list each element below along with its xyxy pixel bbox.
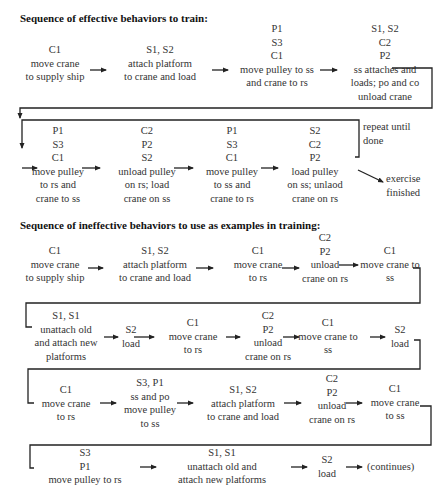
- action-text: to rs: [36, 410, 96, 424]
- action-text: attach new platforms: [170, 473, 274, 487]
- repeat-until-done-note: repeat until done: [363, 120, 411, 147]
- actor-label: C2: [304, 372, 360, 386]
- actor-label: S1, S1: [30, 309, 102, 323]
- action-text: move pulley to ss: [232, 63, 322, 77]
- action-text: unload pulley: [112, 165, 182, 179]
- action-text: to rs: [162, 343, 224, 357]
- actor-label: P2: [345, 49, 425, 63]
- ineffective-step-12: C1 move crane to rs: [36, 383, 96, 424]
- actor-label: P2: [297, 245, 353, 259]
- ineffective-step-13: S3, P1 ss and po move pulley to ss: [118, 376, 182, 430]
- actor-label: S1, S1: [170, 446, 274, 460]
- action-text: unload: [240, 336, 296, 350]
- action-text: platforms: [30, 350, 102, 364]
- action-text: unload: [297, 258, 353, 272]
- note-text: exercise: [386, 172, 420, 186]
- action-text: load pulley: [280, 165, 350, 179]
- action-text: move crane: [228, 258, 288, 272]
- action-text: ss attaches and: [345, 63, 425, 77]
- action-text: to crane and load: [110, 271, 200, 285]
- action-text: move crane to: [358, 258, 422, 272]
- effective-loop-step-1: P1 S3 C1 move pulley to rs and crane to …: [28, 124, 88, 205]
- effective-sequence-heading: Sequence of effective behaviors to train…: [20, 12, 208, 24]
- actor-label: C2: [297, 231, 353, 245]
- action-text: ss: [358, 271, 422, 285]
- action-text: move pulley: [197, 165, 267, 179]
- action-text: to supply ship: [20, 70, 90, 84]
- actor-label: C1: [358, 244, 422, 258]
- action-text: to rs and: [28, 178, 88, 192]
- action-text: to ss: [118, 417, 182, 431]
- actor-label: S3: [28, 138, 88, 152]
- effective-loop-step-2: C2 P2 S2 unload pulley on rs; load crane…: [112, 124, 182, 205]
- actor-label: S2: [314, 453, 340, 467]
- ineffective-step-10: C1 move crane to ss: [296, 316, 360, 357]
- action-text: move crane: [162, 330, 224, 344]
- actor-label: S3: [232, 36, 322, 50]
- ineffective-step-3: C1 move crane to rs: [228, 244, 288, 285]
- actor-label: S3: [197, 138, 267, 152]
- action-text: ss: [296, 343, 360, 357]
- effective-step-3: P1 S3 C1 move pulley to ss and crane to …: [232, 22, 322, 90]
- actor-label: P2: [304, 386, 360, 400]
- ineffective-step-4: C2 P2 unload crane on rs: [297, 231, 353, 285]
- actor-label: P2: [280, 151, 350, 165]
- action-text: crane to rs: [197, 192, 267, 206]
- actor-label: S1, S2: [345, 22, 425, 36]
- action-text: on ss; unlaod: [280, 178, 350, 192]
- action-text: and crane to rs: [232, 76, 322, 90]
- action-text: move crane: [370, 396, 420, 410]
- action-text: crane on rs: [240, 350, 296, 364]
- action-text: on rs; load: [112, 178, 182, 192]
- ineffective-step-6: S1, S1 unattach old and attach new platf…: [30, 309, 102, 363]
- actor-label: S1, S2: [110, 244, 200, 258]
- actor-label: C1: [28, 151, 88, 165]
- actor-label: C2: [112, 124, 182, 138]
- ineffective-step-2: S1, S2 attach platform to crane and load: [110, 244, 200, 285]
- action-text: to ss and: [197, 178, 267, 192]
- action-text: attach platform: [115, 57, 205, 71]
- action-text: unload: [304, 399, 360, 413]
- actor-label: C1: [228, 244, 288, 258]
- action-text: loads; po and co: [345, 76, 425, 90]
- action-text: to crane and load: [115, 70, 205, 84]
- actor-label: S2: [118, 323, 144, 337]
- ineffective-step-15: C2 P2 unload crane on rs: [304, 372, 360, 426]
- action-text: to rs: [228, 271, 288, 285]
- actor-label: C2: [280, 138, 350, 152]
- actor-label: P1: [28, 124, 88, 138]
- action-text: crane on ss: [112, 192, 182, 206]
- actor-label: S2: [280, 124, 350, 138]
- actor-label: S1, S2: [115, 43, 205, 57]
- actor-label: C1: [20, 43, 90, 57]
- effective-loop-step-4: S2 C2 P2 load pulley on ss; unlaod crane…: [280, 124, 350, 205]
- ineffective-sequence-heading: Sequence of ineffective behaviors to use…: [20, 219, 320, 231]
- actor-label: C2: [345, 36, 425, 50]
- ineffective-step-17: S3 P1 move pulley to rs: [42, 446, 128, 487]
- actor-label: C1: [232, 49, 322, 63]
- actor-label: P1: [42, 460, 128, 474]
- action-text: move crane: [20, 57, 90, 71]
- actor-label: S2: [112, 151, 182, 165]
- action-text: crane on rs: [304, 413, 360, 427]
- effective-step-1: C1 move crane to supply ship: [20, 43, 90, 84]
- action-text: unattach old: [30, 323, 102, 337]
- effective-step-2: S1, S2 attach platform to crane and load: [115, 43, 205, 84]
- action-text: to crane and load: [198, 410, 288, 424]
- action-text: move crane: [20, 258, 90, 272]
- effective-step-4: S1, S2 C2 P2 ss attaches and loads; po a…: [345, 22, 425, 103]
- ineffective-step-8: C1 move crane to rs: [162, 316, 224, 357]
- actor-label: C1: [370, 382, 420, 396]
- action-text: attach platform: [110, 258, 200, 272]
- action-text: crane on rs: [297, 272, 353, 286]
- ineffective-step-7: S2 load: [118, 323, 144, 350]
- finish-arrow-icon: [358, 170, 383, 182]
- ineffective-step-1: C1 move crane to supply ship: [20, 244, 90, 285]
- exercise-finished-note: exercise finished: [386, 172, 420, 199]
- actor-label: P1: [232, 22, 322, 36]
- actor-label: C1: [296, 316, 360, 330]
- action-text: ss and po: [118, 390, 182, 404]
- actor-label: P1: [197, 124, 267, 138]
- action-text: move pulley to rs: [42, 473, 128, 487]
- ineffective-step-18: S1, S1 unattach old and attach new platf…: [170, 446, 274, 487]
